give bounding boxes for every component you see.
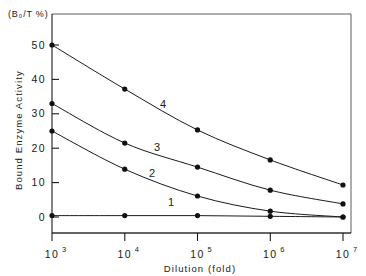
x-tick-exponent-1e3: 3 <box>62 245 66 254</box>
x-tick-label-1e5: 10 <box>190 248 204 260</box>
data-point-s3-10000 <box>122 140 127 145</box>
x-tick-exponent-1e5: 5 <box>207 245 211 254</box>
series-label-4: 4 <box>160 98 166 110</box>
x-tick-label-1e7: 10 <box>336 248 350 260</box>
y-tick-label-40: 40 <box>32 73 46 85</box>
chart-figure: 0 10 20 30 40 50 10 3 10 4 10 5 10 6 10 <box>0 0 366 276</box>
data-point-s4-1000000 <box>268 157 273 162</box>
x-axis-ticks <box>52 233 343 241</box>
data-point-s1-10000 <box>122 213 127 218</box>
x-tick-label-1e4: 10 <box>118 248 132 260</box>
curve-series-2 <box>52 131 343 217</box>
data-point-s3-10000000 <box>340 201 345 206</box>
data-point-s1-1000 <box>49 213 54 218</box>
y-unit-text: (B₀/T %) <box>8 9 48 19</box>
x-axis-title: Dilution (fold) <box>164 263 236 274</box>
x-tick-exponent-1e6: 6 <box>280 245 284 254</box>
data-point-s4-10000000 <box>340 182 345 187</box>
x-tick-label-1e6: 10 <box>263 248 277 260</box>
x-tick-exponent-1e4: 4 <box>135 245 139 254</box>
data-point-s2-10000000 <box>340 214 345 219</box>
data-point-s4-10000 <box>122 86 127 91</box>
x-tick-exponent-1e7: 7 <box>353 245 357 254</box>
data-point-s2-100000 <box>195 193 200 198</box>
plot-frame <box>52 14 351 233</box>
y-axis-tick-labels: 0 10 20 30 40 50 <box>32 39 46 223</box>
line-chart-svg: 0 10 20 30 40 50 10 3 10 4 10 5 10 6 10 <box>0 0 366 276</box>
series-label-2: 2 <box>149 167 155 179</box>
y-tick-label-0: 0 <box>39 211 46 223</box>
data-point-s4-1000 <box>49 42 54 47</box>
y-tick-label-50: 50 <box>32 39 46 51</box>
data-point-s2-10000 <box>122 167 127 172</box>
x-tick-label-1e3: 10 <box>45 248 59 260</box>
y-tick-label-20: 20 <box>32 142 46 154</box>
data-point-s2-1000 <box>49 128 54 133</box>
y-tick-label-30: 30 <box>32 107 46 119</box>
data-point-s2-1000000 <box>268 209 273 214</box>
series-label-3: 3 <box>154 141 160 153</box>
curve-series-3 <box>52 103 343 203</box>
curve-series-4 <box>52 45 343 185</box>
series-label-1: 1 <box>168 196 174 208</box>
data-point-s3-1000000 <box>268 188 273 193</box>
data-point-s3-100000 <box>195 165 200 170</box>
y-axis-unit-label: (B₀/T %) <box>8 9 48 19</box>
y-axis-title: Bound Enzyme Activity <box>13 70 24 190</box>
data-point-s1-100000 <box>195 213 200 218</box>
x-axis-tick-labels: 10 3 10 4 10 5 10 6 10 7 <box>45 245 357 260</box>
data-point-s4-100000 <box>195 127 200 132</box>
data-point-s1-1000000 <box>268 214 273 219</box>
y-tick-label-10: 10 <box>32 176 46 188</box>
data-point-s3-1000 <box>49 101 54 106</box>
data-markers <box>49 42 345 219</box>
